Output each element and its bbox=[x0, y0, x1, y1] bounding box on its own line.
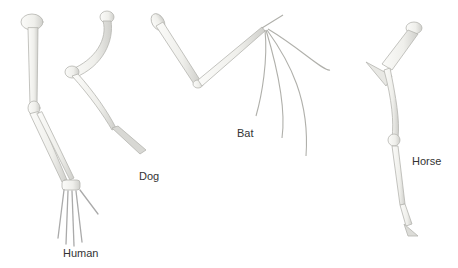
horse-cannon-bone bbox=[392, 146, 405, 205]
human-humerus bbox=[28, 28, 38, 104]
limb-illustrations bbox=[0, 0, 458, 268]
horse-knee bbox=[388, 134, 400, 146]
horse-hoof bbox=[404, 224, 418, 236]
horse-radius bbox=[384, 68, 399, 138]
horse-leg-illustration bbox=[366, 22, 422, 236]
bat-fingers bbox=[256, 15, 330, 156]
human-fingers bbox=[58, 190, 98, 246]
dog-leg-illustration bbox=[65, 11, 146, 154]
label-human: Human bbox=[63, 247, 98, 259]
label-bat: Bat bbox=[237, 127, 254, 139]
bat-humerus bbox=[156, 22, 200, 84]
human-wrist bbox=[62, 180, 80, 190]
human-ulna bbox=[37, 112, 74, 180]
label-horse: Horse bbox=[412, 155, 441, 167]
horse-humerus bbox=[382, 30, 418, 70]
dog-radius-ulna bbox=[72, 74, 116, 130]
horse-pastern bbox=[400, 204, 412, 226]
human-radius bbox=[30, 112, 67, 182]
human-arm-illustration bbox=[21, 14, 98, 246]
bat-forearm bbox=[198, 27, 265, 86]
limb-comparison-figure: Human Dog Bat Horse bbox=[0, 0, 458, 268]
label-dog: Dog bbox=[139, 170, 159, 182]
dog-paw bbox=[112, 126, 146, 154]
